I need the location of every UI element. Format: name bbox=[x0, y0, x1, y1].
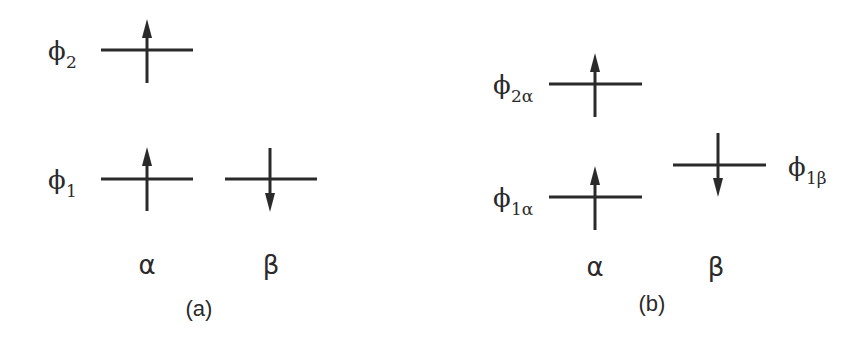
beta-column-label: β bbox=[263, 250, 280, 280]
panel-a-caption: (a) bbox=[186, 296, 213, 321]
phi1-symbol: ϕ bbox=[48, 165, 66, 195]
phi1-subscript: 1 bbox=[66, 181, 77, 201]
beta-column-label: β bbox=[708, 252, 725, 282]
panel-a: ϕ 2 ϕ 1 α β (a) bbox=[48, 19, 317, 321]
phi2-subscript: 2 bbox=[66, 52, 77, 72]
alpha-column-label: α bbox=[586, 252, 603, 282]
phi1alpha-subscript: 1α bbox=[511, 199, 534, 219]
phi1beta-symbol: ϕ bbox=[788, 152, 806, 182]
orbital-diagram: ϕ 2 ϕ 1 α β (a) ϕ 2α bbox=[0, 0, 851, 339]
panel-b: ϕ 2α ϕ 1β ϕ 1α α β (b) bbox=[493, 53, 827, 316]
phi1beta-subscript: 1β bbox=[806, 168, 827, 188]
phi2-symbol: ϕ bbox=[48, 36, 66, 66]
phi1alpha-symbol: ϕ bbox=[493, 183, 511, 213]
alpha-column-label: α bbox=[138, 250, 155, 280]
phi2alpha-subscript: 2α bbox=[511, 86, 534, 106]
phi2alpha-symbol: ϕ bbox=[493, 70, 511, 100]
panel-b-caption: (b) bbox=[639, 291, 666, 316]
